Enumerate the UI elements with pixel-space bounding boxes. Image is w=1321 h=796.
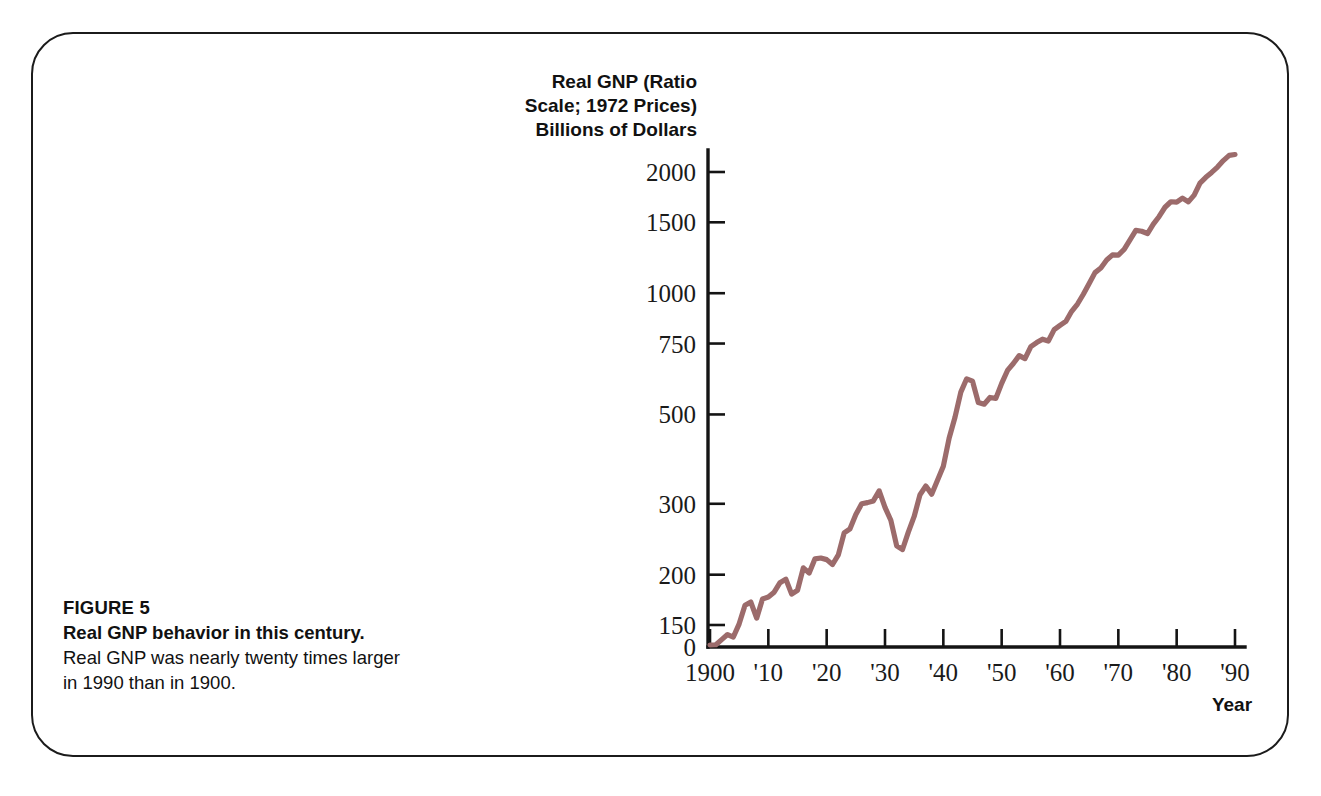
figure-title: Real GNP behavior in this century. — [63, 620, 503, 645]
figure-caption: FIGURE 5 Real GNP behavior in this centu… — [63, 596, 503, 695]
figure-number: FIGURE 5 — [63, 596, 503, 620]
figure-description-line-2: in 1990 than in 1900. — [63, 670, 503, 695]
figure-description-line-1: Real GNP was nearly twenty times larger — [63, 645, 503, 670]
